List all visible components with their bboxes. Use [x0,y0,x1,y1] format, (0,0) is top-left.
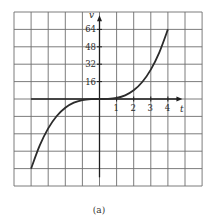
y-tick-labels: 16324864 [85,24,96,86]
y-tick-label: 48 [85,42,96,52]
x-tick-label: 3 [148,103,153,113]
t-axis-arrow-icon [176,97,182,102]
x-tick-label: 2 [130,103,135,113]
y-tick-label: 64 [85,24,96,34]
figure-caption: (a) [93,205,105,215]
x-axis-label: t [180,104,184,114]
axes [31,15,182,177]
x-tick-labels: 1234 [113,103,170,113]
v-axis-arrow-icon [97,15,102,21]
x-tick-label: 1 [113,103,118,113]
y-tick-label: 32 [85,59,96,69]
y-axis-label: v [89,10,94,20]
y-tick-label: 16 [85,77,96,87]
cubic-velocity-chart: 1234 16324864 t v (a) [0,0,214,222]
x-tick-label: 4 [165,103,170,113]
